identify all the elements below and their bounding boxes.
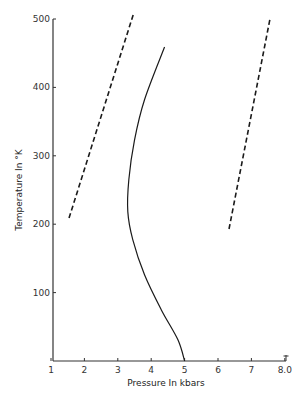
x-tick-label: 3: [115, 365, 121, 375]
y-axis-title: Temperature In °K: [14, 148, 24, 232]
solid-curve: [128, 47, 185, 361]
y-tick-label: 300: [33, 151, 50, 161]
chart: 100200300400500 12345678.0 Temperature I…: [0, 0, 300, 399]
y-tick-label: 200: [33, 219, 50, 229]
x-tick-label: 7: [249, 365, 255, 375]
x-tick-label: 1: [48, 365, 54, 375]
x-tick-label: 2: [82, 365, 88, 375]
left-dashed-line: [69, 15, 133, 218]
y-tick-label: 500: [33, 14, 50, 24]
x-tick-label: 4: [148, 365, 154, 375]
axes: [53, 19, 289, 361]
series-group: [69, 15, 270, 361]
y-tick-label: 100: [33, 288, 50, 298]
x-tick-label: 8.0: [278, 365, 293, 375]
x-tick-label: 6: [215, 365, 221, 375]
y-tick-label: 400: [33, 82, 50, 92]
right-dashed-line: [229, 18, 270, 229]
x-axis-title: Pressure In kbars: [127, 378, 205, 388]
x-tick-label: 5: [182, 365, 188, 375]
